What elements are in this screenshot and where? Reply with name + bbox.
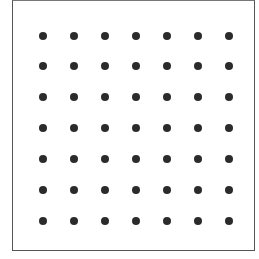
dot xyxy=(70,217,78,225)
dot xyxy=(194,32,202,40)
dot xyxy=(225,32,233,40)
dot xyxy=(163,155,171,163)
dot xyxy=(70,155,78,163)
dot xyxy=(132,93,140,101)
dot xyxy=(39,32,47,40)
dot xyxy=(163,32,171,40)
dot xyxy=(132,124,140,132)
dot xyxy=(101,32,109,40)
dot xyxy=(132,217,140,225)
dot xyxy=(39,93,47,101)
dot xyxy=(70,32,78,40)
dot xyxy=(101,155,109,163)
dot xyxy=(194,62,202,70)
dot xyxy=(39,155,47,163)
dot xyxy=(163,217,171,225)
dot xyxy=(132,186,140,194)
dot xyxy=(70,186,78,194)
dot xyxy=(39,124,47,132)
dot xyxy=(225,62,233,70)
dot xyxy=(194,93,202,101)
dot xyxy=(194,217,202,225)
dot xyxy=(225,124,233,132)
dot xyxy=(70,62,78,70)
dot xyxy=(163,186,171,194)
dot-grid xyxy=(0,0,259,259)
dot xyxy=(225,186,233,194)
dot xyxy=(225,217,233,225)
dot xyxy=(194,124,202,132)
dot xyxy=(132,32,140,40)
dot xyxy=(70,93,78,101)
dot xyxy=(163,62,171,70)
dot xyxy=(39,217,47,225)
dot xyxy=(39,186,47,194)
dot xyxy=(101,93,109,101)
dot xyxy=(132,62,140,70)
dot xyxy=(101,186,109,194)
dot xyxy=(101,62,109,70)
dot xyxy=(101,217,109,225)
dot xyxy=(70,124,78,132)
dot xyxy=(101,124,109,132)
dot xyxy=(132,155,140,163)
dot xyxy=(163,93,171,101)
dot xyxy=(225,93,233,101)
dot xyxy=(194,186,202,194)
dot xyxy=(163,124,171,132)
dot xyxy=(225,155,233,163)
dot xyxy=(39,62,47,70)
dot xyxy=(194,155,202,163)
